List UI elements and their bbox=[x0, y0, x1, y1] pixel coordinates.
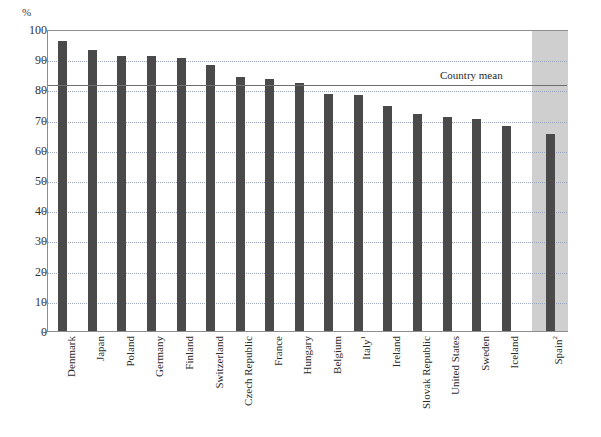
country-mean-line bbox=[48, 85, 567, 86]
bar-italy bbox=[354, 95, 363, 331]
bar-germany bbox=[147, 56, 156, 331]
plot-area: Country mean bbox=[47, 30, 568, 332]
y-axis-tick-label: 90 bbox=[5, 54, 47, 66]
bar-belgium bbox=[324, 94, 333, 331]
bar-sweden bbox=[472, 119, 481, 331]
y-axis-tick-label: 20 bbox=[5, 266, 47, 278]
x-axis-label-ireland: Ireland bbox=[391, 336, 402, 367]
x-axis-label-france: France bbox=[273, 336, 284, 366]
bar-chart-figure: % 1009080706050403020100 Country mean De… bbox=[0, 0, 601, 437]
bar-iceland bbox=[502, 126, 511, 331]
x-axis-label-germany: Germany bbox=[154, 336, 165, 377]
x-axis-label-poland: Poland bbox=[125, 336, 136, 367]
y-axis-tick-label: 100 bbox=[5, 24, 47, 36]
x-axis-label-sweden: Sweden bbox=[480, 336, 491, 371]
bar-ireland bbox=[383, 106, 392, 331]
x-axis-label-denmark: Denmark bbox=[66, 336, 77, 377]
bar-czech-republic bbox=[236, 77, 245, 331]
country-mean-label: Country mean bbox=[440, 69, 503, 81]
y-axis-tick-label: 80 bbox=[5, 84, 47, 96]
x-axis-label-united-states: United States bbox=[450, 336, 461, 395]
x-axis-label-italy: Italy1 bbox=[361, 336, 372, 360]
x-axis-label-spain: Spain2 bbox=[553, 336, 564, 365]
y-axis-tick-label: 10 bbox=[5, 296, 47, 308]
x-axis-label-layer: DenmarkJapanPolandGermanyFinlandSwitzerl… bbox=[0, 332, 601, 437]
x-axis-label-switzerland: Switzerland bbox=[214, 336, 225, 389]
x-axis-label-iceland: Iceland bbox=[509, 336, 520, 368]
bar-spain bbox=[546, 134, 555, 331]
x-axis-label-slovak-republic: Slovak Republic bbox=[421, 336, 432, 409]
footnote-marker: 1 bbox=[360, 336, 368, 340]
bar-united-states bbox=[443, 117, 452, 331]
x-axis-label-belgium: Belgium bbox=[332, 336, 343, 374]
bar-slovak-republic bbox=[413, 114, 422, 331]
bar-switzerland bbox=[206, 65, 215, 331]
y-axis-tick-label: 70 bbox=[5, 115, 47, 127]
x-axis-label-czech-republic: Czech Republic bbox=[243, 336, 254, 406]
bar-france bbox=[265, 79, 274, 331]
y-axis-tick-label: 50 bbox=[5, 175, 47, 187]
y-axis-tick-label: 40 bbox=[5, 205, 47, 217]
footnote-marker: 2 bbox=[551, 336, 559, 340]
bar-japan bbox=[88, 50, 97, 331]
bar-finland bbox=[177, 58, 186, 331]
y-axis-tick-label: 60 bbox=[5, 145, 47, 157]
x-axis-label-japan: Japan bbox=[95, 336, 106, 361]
bar-hungary bbox=[295, 83, 304, 331]
x-axis-label-finland: Finland bbox=[184, 336, 195, 370]
y-axis-tick-label: 30 bbox=[5, 235, 47, 247]
x-axis-label-hungary: Hungary bbox=[302, 336, 313, 375]
bar-poland bbox=[117, 56, 126, 331]
